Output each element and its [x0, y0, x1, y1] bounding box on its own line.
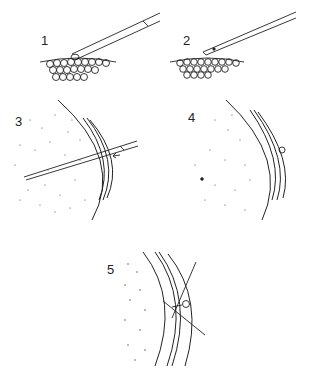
panel-2-drawing — [170, 12, 296, 78]
panel-5-drawing — [124, 252, 205, 366]
diagram-canvas — [0, 0, 309, 377]
panel-4-drawing — [194, 100, 285, 220]
panel-1-drawing — [40, 13, 160, 81]
panel-3-drawing — [14, 100, 138, 220]
